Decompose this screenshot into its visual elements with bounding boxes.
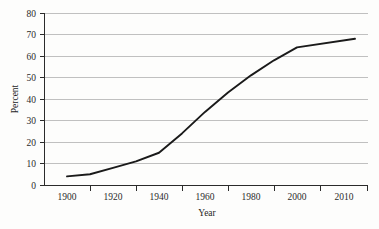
- y-tick-label-50: 50: [27, 73, 37, 83]
- y-tick-label-70: 70: [27, 30, 37, 40]
- y-tick-label-60: 60: [27, 52, 37, 62]
- chart-canvas: 80 70 60 50 40 30 20 10 0 1900 1920 1940…: [0, 0, 379, 229]
- y-tick-label-0: 0: [31, 181, 36, 191]
- y-tick-label-80: 80: [27, 9, 37, 19]
- y-tick-label-20: 20: [27, 138, 37, 148]
- x-tick-label-1980: 1980: [242, 192, 261, 202]
- y-tick-labels: 80 70 60 50 40 30 20 10 0: [27, 9, 37, 191]
- x-tick-label-1940: 1940: [150, 192, 169, 202]
- x-tick-label-2010: 2010: [335, 192, 354, 202]
- x-tick-label-1920: 1920: [104, 192, 123, 202]
- line-chart: 80 70 60 50 40 30 20 10 0 1900 1920 1940…: [0, 0, 379, 229]
- y-tick-label-10: 10: [27, 159, 37, 169]
- y-tick-label-30: 30: [27, 116, 37, 126]
- y-tick-label-40: 40: [27, 95, 37, 105]
- y-axis-title: Percent: [10, 84, 20, 113]
- x-tick-label-2000: 2000: [288, 192, 307, 202]
- x-tick-label-1960: 1960: [196, 192, 215, 202]
- x-tick-label-1900: 1900: [58, 192, 77, 202]
- x-axis-title: Year: [198, 208, 216, 218]
